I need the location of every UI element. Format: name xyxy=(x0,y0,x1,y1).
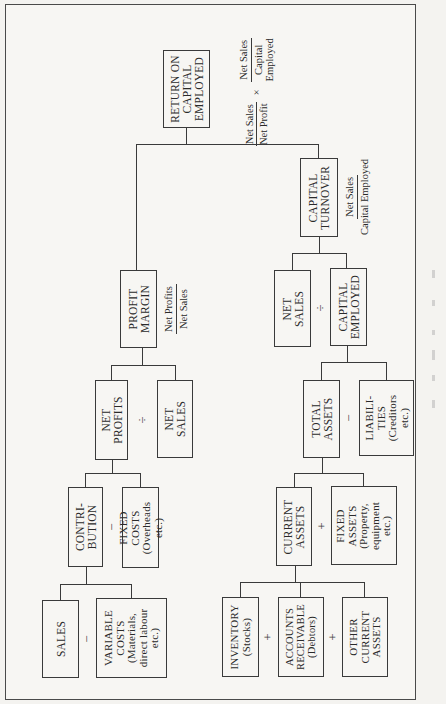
node-liabilities: LIABILI- TIES (Creditors etc.) xyxy=(359,380,414,456)
node-label: CURRENT ASSETS xyxy=(282,499,306,554)
connector xyxy=(131,584,132,598)
node-label: VARIABLE COSTS (Materials, direct labour… xyxy=(103,609,161,668)
node-label: LIABILI- TIES (Creditors etc.) xyxy=(363,395,409,442)
connector xyxy=(85,473,141,474)
plus-operator: + xyxy=(314,522,330,529)
node-label: NET PROFITS xyxy=(99,396,123,443)
connector xyxy=(136,144,319,145)
node-label: RETURN ON CAPITAL EMPLOYED xyxy=(168,55,204,122)
connector xyxy=(85,473,86,487)
caption-remnant xyxy=(432,375,435,381)
connector xyxy=(300,582,301,597)
caption-remnant xyxy=(432,270,435,278)
connector xyxy=(295,566,296,582)
divide-operator: ÷ xyxy=(312,304,328,311)
minus-operator: − xyxy=(104,523,120,530)
node-variable-costs: VARIABLE COSTS (Materials, direct labour… xyxy=(96,598,167,678)
connector xyxy=(294,473,295,487)
connector xyxy=(175,365,176,380)
connector xyxy=(240,582,241,597)
caption-remnant xyxy=(432,350,435,360)
plus-operator: + xyxy=(325,633,341,640)
minus-operator: − xyxy=(79,635,95,642)
connector xyxy=(86,567,87,584)
node-sales: SALES xyxy=(42,600,79,678)
node-accounts-receivable: ACCOUNTS RECEIVABLE (Debtors) xyxy=(278,597,324,677)
node-label: NET SALES xyxy=(280,290,304,326)
node-capital-employed: CAPITAL EMPLOYED xyxy=(330,268,367,346)
connector xyxy=(60,584,132,585)
connector xyxy=(111,365,112,380)
node-capital-turnover: CAPITAL TURNOVER xyxy=(300,158,338,237)
fraction-net-sales-over-net-profit: Net Sales Net Profit xyxy=(244,101,270,147)
node-inventory: INVENTORY (Stocks) xyxy=(222,597,259,677)
fraction-net-sales-over-capital-employed: Net Sales Capital Employed xyxy=(238,36,276,83)
connector xyxy=(319,237,320,253)
node-label: ACCOUNTS RECEIVABLE (Debtors) xyxy=(284,604,317,670)
caption-remnant xyxy=(432,400,435,408)
multiply-operator: × xyxy=(251,89,262,95)
node-return-on-capital-employed: RETURN ON CAPITAL EMPLOYED xyxy=(163,50,210,128)
node-label: CAPITAL EMPLOYED xyxy=(336,275,360,339)
connector xyxy=(346,253,347,268)
node-fixed-costs: FIXED COSTS (Overheads etc.) xyxy=(122,487,159,568)
connector xyxy=(364,582,365,597)
connector xyxy=(318,144,319,158)
node-profit-margin: PROFIT MARGIN xyxy=(120,270,157,348)
connector xyxy=(321,362,322,380)
node-label: TOTAL ASSETS xyxy=(309,398,333,441)
node-label: NET SALES xyxy=(163,401,187,437)
profit-margin-formula: Net Profits Net Sales xyxy=(163,284,189,334)
node-label: FIXED COSTS (Overheads etc.) xyxy=(117,501,163,554)
connector xyxy=(240,582,365,583)
node-label: OTHER CURRENT ASSETS xyxy=(348,611,383,664)
node-label: CAPITAL TURNOVER xyxy=(307,165,331,229)
connector xyxy=(347,346,348,362)
connector xyxy=(294,473,364,474)
node-other-current-assets: OTHER CURRENT ASSETS xyxy=(342,597,388,677)
caption-remnant xyxy=(432,300,435,306)
connector xyxy=(111,365,176,366)
connector xyxy=(321,362,387,363)
minus-operator: − xyxy=(341,414,357,421)
divide-operator: ÷ xyxy=(134,416,150,423)
connector xyxy=(363,473,364,486)
connector xyxy=(292,253,293,270)
node-label: PROFIT MARGIN xyxy=(126,285,150,333)
connector xyxy=(112,460,113,473)
connector xyxy=(386,362,387,380)
node-label: SALES xyxy=(54,621,66,657)
node-label: CONTRI- BUTION xyxy=(73,503,97,551)
capital-turnover-formula: Net Sales Capital Employed xyxy=(344,157,370,237)
node-label: FIXED ASSETS (Property, equipment etc.) xyxy=(335,501,393,549)
caption-remnant xyxy=(432,330,435,335)
node-current-assets: CURRENT ASSETS xyxy=(276,487,312,566)
plus-operator: + xyxy=(260,633,276,640)
node-total-assets: TOTAL ASSETS xyxy=(303,380,340,458)
connector xyxy=(60,584,61,600)
node-contribution: CONTRI- BUTION xyxy=(68,487,103,567)
node-net-sales-right: NET SALES xyxy=(274,270,311,347)
node-fixed-assets: FIXED ASSETS (Property, equipment etc.) xyxy=(331,486,397,565)
connector xyxy=(136,144,137,270)
connector xyxy=(186,128,187,144)
connector xyxy=(140,473,141,487)
connector xyxy=(142,348,143,365)
roce-formula: Net Sales Net Profit × Net Sales Capital… xyxy=(238,36,276,147)
connector xyxy=(292,253,347,254)
diagram-frame xyxy=(5,4,416,700)
node-net-profits: NET PROFITS xyxy=(95,380,128,460)
node-net-sales-left: NET SALES xyxy=(157,380,193,458)
node-label: INVENTORY (Stocks) xyxy=(229,604,252,669)
connector xyxy=(322,458,323,473)
